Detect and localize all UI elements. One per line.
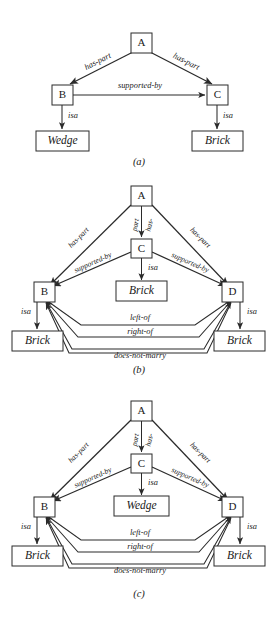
edge-label-supported-by: supported-by — [170, 465, 211, 490]
node-b-D[interactable]: D — [222, 282, 243, 302]
leaf-label: Brick — [227, 334, 253, 346]
edge-label-left-of: left-of — [130, 528, 152, 537]
node-label: B — [59, 88, 66, 100]
edge-label-right-of: right-of — [127, 542, 154, 551]
figure-b: has-part part has- has-part supported-by… — [0, 180, 276, 400]
node-label: A — [138, 404, 146, 416]
edge-label-has-part: has-part — [172, 51, 202, 72]
edge-label-supported-by: supported-by — [170, 250, 211, 275]
edge-label-has-part: has-part — [83, 51, 113, 72]
edge-label-has-part: has-part — [66, 440, 91, 465]
node-a-C[interactable]: C — [207, 85, 228, 105]
leaf-b-brick-b[interactable]: Brick — [12, 331, 63, 351]
edge-label-does-not-marry: does-not-marry — [114, 351, 166, 360]
edge-label-does-not-marry: does-not-marry — [114, 566, 166, 575]
node-label: C — [214, 88, 221, 100]
figure-b-caption: (b) — [133, 364, 146, 376]
edge-label-isa: isa — [21, 522, 31, 531]
edge-label-isa: isa — [247, 307, 257, 316]
figure-c: has-part part has- has-part supported-by… — [0, 395, 276, 628]
node-b-A[interactable]: A — [131, 186, 152, 206]
edge-label-isa: isa — [68, 111, 78, 120]
leaf-c-brick-b[interactable]: Brick — [12, 546, 63, 566]
leaf-a-brick[interactable]: Brick — [192, 131, 243, 151]
node-label: C — [138, 242, 145, 254]
node-label: D — [229, 285, 237, 297]
edge-label-isa: isa — [223, 111, 233, 120]
figure-a: has-part has-part supported-by isa isa A… — [0, 0, 276, 180]
edge-label-right-of: right-of — [127, 327, 154, 336]
node-c-C[interactable]: C — [131, 454, 152, 473]
node-a-A[interactable]: A — [131, 33, 152, 53]
leaf-a-wedge[interactable]: Wedge — [36, 131, 89, 151]
edge-c-haspart-ab — [50, 420, 131, 500]
edge-b-haspart-ab — [50, 205, 131, 285]
node-label: C — [138, 457, 145, 469]
edge-label-isa: isa — [247, 522, 257, 531]
node-label: D — [229, 500, 237, 512]
node-c-D[interactable]: D — [222, 497, 243, 517]
leaf-label: Brick — [129, 284, 155, 296]
node-label: B — [41, 285, 48, 297]
node-label: B — [41, 500, 48, 512]
node-label: A — [138, 189, 146, 201]
leaf-label: Wedge — [126, 499, 156, 512]
leaf-label: Brick — [25, 549, 51, 561]
node-c-A[interactable]: A — [131, 401, 152, 421]
figure-c-caption: (c) — [133, 588, 145, 600]
edge-label-has-part-line1: has- — [144, 432, 156, 447]
figure-page: has-part has-part supported-by isa isa A… — [0, 0, 276, 628]
edge-b-haspart-ad — [152, 205, 228, 285]
leaf-b-brick-c[interactable]: Brick — [116, 281, 167, 301]
leaf-c-wedge[interactable]: Wedge — [114, 496, 169, 516]
edge-label-supported-by: supported-by — [118, 81, 162, 90]
leaf-label: Wedge — [47, 134, 77, 147]
edge-label-isa: isa — [148, 263, 158, 272]
leaf-label: Brick — [227, 549, 253, 561]
leaf-label: Brick — [25, 334, 51, 346]
node-b-B[interactable]: B — [34, 282, 55, 302]
leaf-label: Brick — [205, 134, 231, 146]
edge-c-haspart-ad — [152, 420, 228, 500]
edge-label-has-part: has-part — [66, 225, 91, 250]
edge-label-has-part-line2: part — [129, 217, 141, 233]
leaf-c-brick-d[interactable]: Brick — [214, 546, 265, 566]
edge-label-isa: isa — [148, 478, 158, 487]
edge-label-left-of: left-of — [130, 313, 152, 322]
figure-a-caption: (a) — [133, 156, 146, 168]
node-c-B[interactable]: B — [34, 497, 55, 517]
node-label: A — [138, 36, 146, 48]
node-b-C[interactable]: C — [131, 239, 152, 258]
edge-label-has-part-line1: has- — [144, 217, 156, 232]
leaf-b-brick-d[interactable]: Brick — [214, 331, 265, 351]
edge-label-has-part-line2: part — [129, 432, 141, 448]
edge-label-isa: isa — [21, 307, 31, 316]
node-a-B[interactable]: B — [52, 85, 73, 105]
